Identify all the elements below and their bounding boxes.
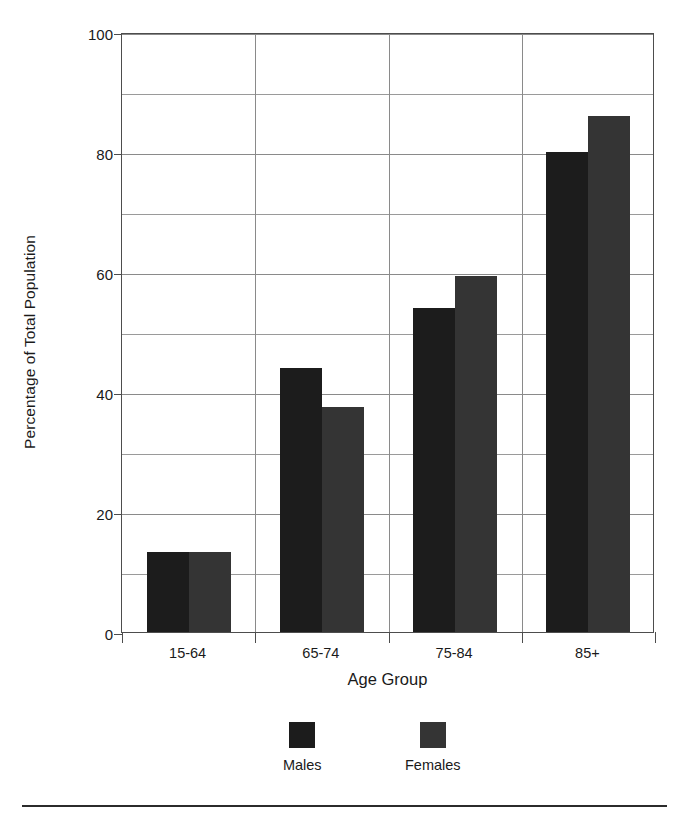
- plot-area: 020406080100: [121, 33, 654, 633]
- x-axis-title: Age Group: [121, 670, 654, 689]
- gridline: [122, 94, 653, 95]
- bar-females-15-64: [189, 552, 231, 632]
- category-divider: [522, 34, 523, 632]
- y-axis-tick-label: 20: [96, 506, 113, 523]
- legend-swatch-females: [420, 722, 446, 748]
- bar-males-15-64: [147, 552, 189, 632]
- category-divider: [389, 34, 390, 632]
- bar-chart-figure: Percentage of Total Population 020406080…: [0, 0, 687, 815]
- bar-females-65-74: [322, 407, 364, 632]
- x-axis-tick: [655, 632, 656, 643]
- x-axis-tick: [522, 632, 523, 643]
- bar-males-65-74: [280, 368, 322, 632]
- legend-swatch-males: [289, 722, 315, 748]
- x-axis-tick: [389, 632, 390, 643]
- y-axis-tick: [114, 274, 122, 275]
- y-axis-tick: [114, 634, 122, 635]
- y-axis-tick: [114, 394, 122, 395]
- y-axis-tick-label: 100: [88, 26, 113, 43]
- legend-entry-males: Males: [252, 722, 352, 773]
- y-axis-tick-label: 40: [96, 386, 113, 403]
- gridline: [122, 34, 653, 35]
- legend-label: Females: [383, 757, 483, 773]
- y-axis-tick: [114, 154, 122, 155]
- x-axis-tick: [122, 632, 123, 643]
- bar-males-75-84: [413, 308, 455, 632]
- x-axis-category-label: 85+: [521, 645, 654, 661]
- x-axis-tick: [255, 632, 256, 643]
- category-divider: [255, 34, 256, 632]
- chart-legend: MalesFemales: [121, 722, 654, 782]
- y-axis-title: Percentage of Total Population: [21, 192, 39, 492]
- bar-females-85+: [588, 116, 630, 632]
- y-axis-tick: [114, 514, 122, 515]
- y-axis-tick-label: 80: [96, 146, 113, 163]
- x-axis-category-label: 15-64: [121, 645, 254, 661]
- legend-entry-females: Females: [383, 722, 483, 773]
- y-axis-tick-label: 0: [105, 626, 113, 643]
- bar-males-85+: [546, 152, 588, 632]
- x-axis-category-label: 65-74: [254, 645, 387, 661]
- bar-females-75-84: [455, 276, 497, 632]
- legend-label: Males: [252, 757, 352, 773]
- x-axis-category-label: 75-84: [388, 645, 521, 661]
- y-axis-tick: [114, 34, 122, 35]
- y-axis-tick-label: 60: [96, 266, 113, 283]
- footer-rule: [22, 805, 667, 807]
